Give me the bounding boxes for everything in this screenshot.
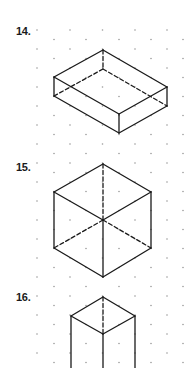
grid-dot [118, 96, 120, 98]
grid-dot [182, 96, 184, 98]
grid-dot [36, 238, 38, 240]
grid-dot [53, 305, 55, 307]
grid-dot [69, 219, 71, 221]
visible-edge [71, 297, 103, 316]
grid-dot [36, 333, 38, 335]
grid-dot [150, 134, 152, 136]
problem-number-16: 16. [16, 292, 30, 303]
grid-dot [182, 286, 184, 288]
grid-dot [182, 58, 184, 60]
grid-dot [182, 210, 184, 212]
visible-edge [103, 248, 151, 277]
hidden-edge [54, 220, 103, 248]
grid-dot [182, 229, 184, 231]
grid-dot [182, 362, 184, 364]
grid-dot [118, 343, 120, 345]
grid-dot [166, 219, 168, 221]
figure-14 [54, 50, 167, 133]
grid-dot [36, 162, 38, 164]
grid-dot [150, 39, 152, 41]
visible-edge [103, 192, 151, 220]
grid-dot [182, 77, 184, 79]
problem-number-15: 15. [16, 162, 30, 173]
grid-dot [166, 295, 168, 297]
grid-dot [36, 200, 38, 202]
grid-dot [53, 172, 55, 174]
grid-dot [53, 134, 55, 136]
grid-dot [102, 86, 104, 88]
grid-dot [36, 181, 38, 183]
grid-dot [85, 362, 87, 364]
grid-dot [118, 77, 120, 79]
grid-dot [69, 143, 71, 145]
grid-dot [69, 48, 71, 50]
grid-dot [150, 362, 152, 364]
grid-dot [166, 238, 168, 240]
grid-dot [36, 219, 38, 221]
grid-dot [182, 134, 184, 136]
grid-dot [36, 257, 38, 259]
grid-dot [69, 295, 71, 297]
grid-dot [182, 267, 184, 269]
grid-dot [150, 153, 152, 155]
grid-dot [166, 352, 168, 354]
grid-dot [85, 248, 87, 250]
figure-16 [71, 297, 135, 368]
grid-dot [166, 124, 168, 126]
grid-dot [118, 153, 120, 155]
grid-dot [166, 143, 168, 145]
visible-edge [103, 164, 151, 192]
grid-dot [134, 219, 136, 221]
grid-dot [150, 267, 152, 269]
grid-dot [118, 39, 120, 41]
grid-dot [118, 134, 120, 136]
visible-edge [54, 164, 103, 192]
grid-dot [102, 29, 104, 31]
grid-dot [182, 305, 184, 307]
grid-dot [166, 29, 168, 31]
grid-dot [85, 153, 87, 155]
grid-dot [182, 343, 184, 345]
grid-dot [134, 276, 136, 278]
grid-dot [150, 324, 152, 326]
grid-dot [36, 105, 38, 107]
grid-dot [85, 134, 87, 136]
grid-dot [53, 343, 55, 345]
grid-dot [85, 39, 87, 41]
grid-dot [36, 67, 38, 69]
grid-dot [166, 200, 168, 202]
figure-15 [54, 164, 151, 277]
grid-dot [69, 29, 71, 31]
grid-dot [36, 124, 38, 126]
grid-dot [53, 153, 55, 155]
grid-dot [102, 143, 104, 145]
grid-dot [150, 58, 152, 60]
grid-dot [53, 324, 55, 326]
grid-dot [53, 362, 55, 364]
hidden-edge [103, 220, 151, 248]
grid-dot [53, 39, 55, 41]
grid-dot [36, 295, 38, 297]
grid-dot [134, 295, 136, 297]
grid-dot [150, 305, 152, 307]
grid-dot [118, 191, 120, 193]
grid-dot [134, 143, 136, 145]
grid-dot [166, 67, 168, 69]
grid-dot [166, 181, 168, 183]
grid-dot [53, 286, 55, 288]
grid-dot [166, 257, 168, 259]
grid-dot [85, 191, 87, 193]
grid-dot [182, 248, 184, 250]
visible-edge [54, 77, 119, 114]
grid-dot [53, 58, 55, 60]
grid-dot [69, 162, 71, 164]
problem-number-14: 14. [16, 26, 30, 37]
visible-edge [54, 248, 103, 277]
grid-dot [166, 162, 168, 164]
grid-dot [134, 29, 136, 31]
grid-dot [182, 172, 184, 174]
grid-dot [36, 48, 38, 50]
grid-dot [182, 115, 184, 117]
grid-dot [85, 343, 87, 345]
visible-edge [103, 297, 135, 316]
